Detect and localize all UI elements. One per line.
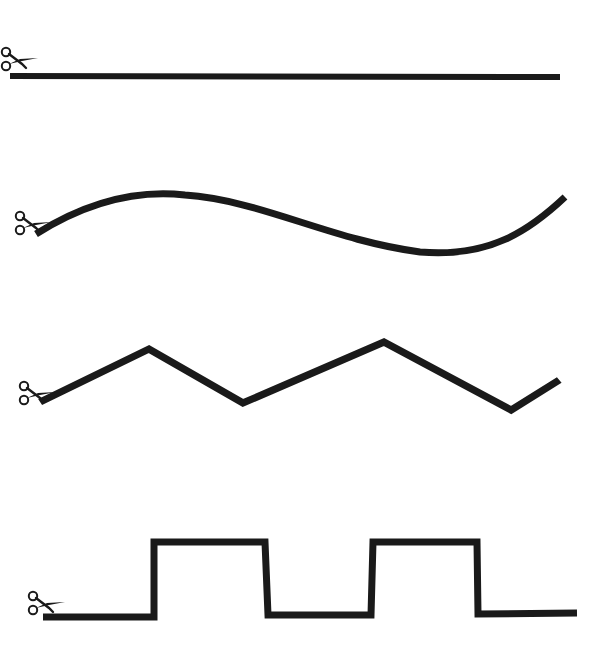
cutting-worksheet — [0, 0, 599, 666]
cut-line-square-wave — [43, 542, 577, 617]
scissors-icon — [2, 48, 38, 70]
scissors-icon — [29, 592, 65, 614]
cut-line-straight — [10, 76, 560, 77]
cut-line-curve — [36, 194, 565, 253]
cut-line-zigzag — [40, 342, 559, 410]
